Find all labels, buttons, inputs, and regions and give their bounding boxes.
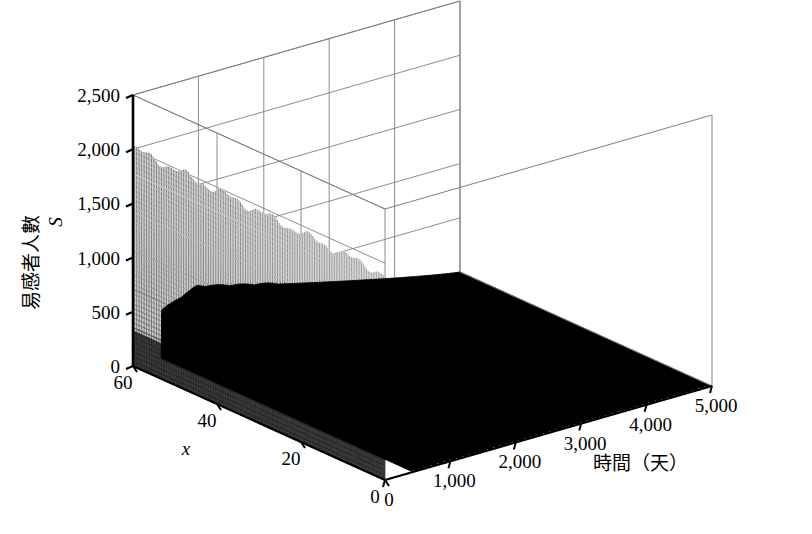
tick-label-x: 40 [198,410,217,431]
tick-label-s: 2,500 [77,85,120,106]
tick-label-time: 4,000 [629,414,672,435]
tick-label-s: 1,500 [77,193,120,214]
tick-label-time: 1,000 [433,470,476,491]
tick-label-time: 3,000 [564,433,607,454]
x-axis-title: x [181,438,191,459]
tick-label-s: 500 [92,302,121,323]
s-axis-variable: S [45,217,66,227]
box-edge [385,115,712,209]
tick-label-x: 20 [282,448,301,469]
tick-label-time: 2,000 [498,451,541,472]
tick-label-s: 1,000 [77,248,120,269]
grid-line-back-s [133,55,460,149]
tick-label-x: 0 [370,486,380,507]
box-edge [133,1,460,95]
surface-region-dark [161,272,711,472]
s-axis-title: 易感者人數 [20,215,42,310]
tick-label-s: 2,000 [77,139,120,160]
tick-label-time: 5,000 [695,395,738,416]
tick-s [126,366,133,369]
surface-plot-3d: 05001,0001,5002,0002,500604020001,0002,0… [0,0,812,534]
tick-label-x: 60 [114,372,133,393]
figure-canvas: 05001,0001,5002,0002,500604020001,0002,0… [0,0,812,534]
time-axis-title: 時間（天） [593,452,688,474]
tick-time [383,480,385,487]
tick-label-time: 0 [384,489,394,510]
surface-mesh [133,146,711,480]
